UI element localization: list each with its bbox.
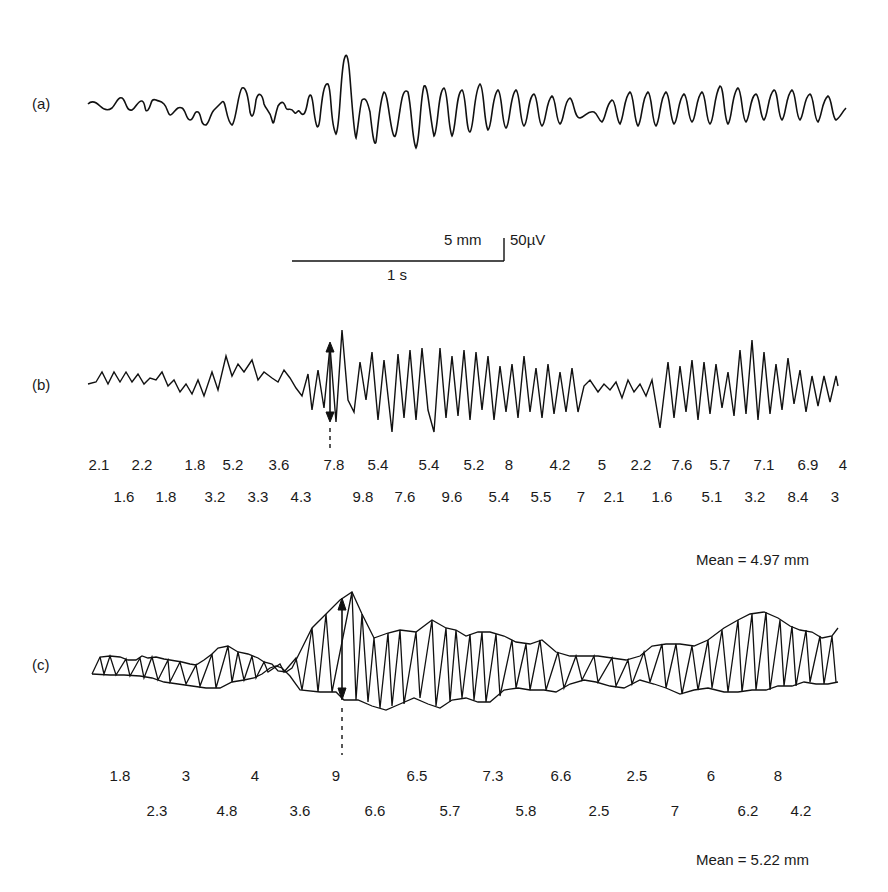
value: 4 (251, 767, 259, 784)
value: 2.1 (89, 456, 110, 473)
value: 3 (182, 767, 190, 784)
trace-b (88, 330, 838, 432)
value: 4 (839, 456, 847, 473)
value: 6.2 (738, 802, 759, 819)
value: 7 (671, 802, 679, 819)
value: 8 (505, 456, 513, 473)
value: 7.8 (324, 456, 345, 473)
value: 5.7 (440, 802, 461, 819)
value: 3.6 (269, 456, 290, 473)
scale-time-label: 1 s (387, 266, 407, 283)
mean-c: Mean = 5.22 mm (696, 851, 809, 868)
value: 8.4 (788, 488, 809, 505)
value: 4.2 (791, 802, 812, 819)
scale-amplitude-label: 50µV (510, 231, 545, 248)
value: 2.1 (604, 488, 625, 505)
value: 2.2 (631, 456, 652, 473)
value: 7.3 (483, 767, 504, 784)
eeg-traces (0, 0, 888, 892)
value: 2.2 (132, 456, 153, 473)
value: 9.8 (353, 488, 374, 505)
value: 6.6 (551, 767, 572, 784)
value: 7.6 (672, 456, 693, 473)
value: 3.3 (248, 488, 269, 505)
marker-b (326, 342, 334, 450)
mean-b: Mean = 4.97 mm (696, 551, 809, 568)
value: 5.5 (531, 488, 552, 505)
value: 4.8 (217, 802, 238, 819)
value: 7.6 (395, 488, 416, 505)
value: 3.2 (745, 488, 766, 505)
value: 1.6 (652, 488, 673, 505)
value: 6.6 (365, 802, 386, 819)
value: 9.6 (442, 488, 463, 505)
trace-a (88, 55, 846, 148)
value: 7 (577, 488, 585, 505)
value: 1.8 (156, 488, 177, 505)
value: 3 (831, 488, 839, 505)
value: 3.6 (290, 802, 311, 819)
value: 6.5 (407, 767, 428, 784)
value: 2.5 (627, 767, 648, 784)
marker-c (338, 598, 346, 755)
value: 6.9 (798, 456, 819, 473)
value: 1.8 (110, 767, 131, 784)
value: 7.1 (754, 456, 775, 473)
value: 8 (774, 767, 782, 784)
value: 4.2 (550, 456, 571, 473)
value: 5.2 (223, 456, 244, 473)
value: 1.8 (185, 456, 206, 473)
value: 2.5 (589, 802, 610, 819)
value: 2.3 (147, 802, 168, 819)
value: 5 (598, 456, 606, 473)
value: 9 (332, 767, 340, 784)
value: 6 (707, 767, 715, 784)
value: 4.3 (291, 488, 312, 505)
value: 5.2 (464, 456, 485, 473)
value: 5.1 (702, 488, 723, 505)
value: 3.2 (205, 488, 226, 505)
value: 5.7 (710, 456, 731, 473)
value: 5.4 (368, 456, 389, 473)
scale-vertical-label: 5 mm (444, 231, 482, 248)
value: 5.8 (516, 802, 537, 819)
trace-c (92, 592, 838, 710)
value: 5.4 (489, 488, 510, 505)
value: 1.6 (114, 488, 135, 505)
value: 5.4 (419, 456, 440, 473)
